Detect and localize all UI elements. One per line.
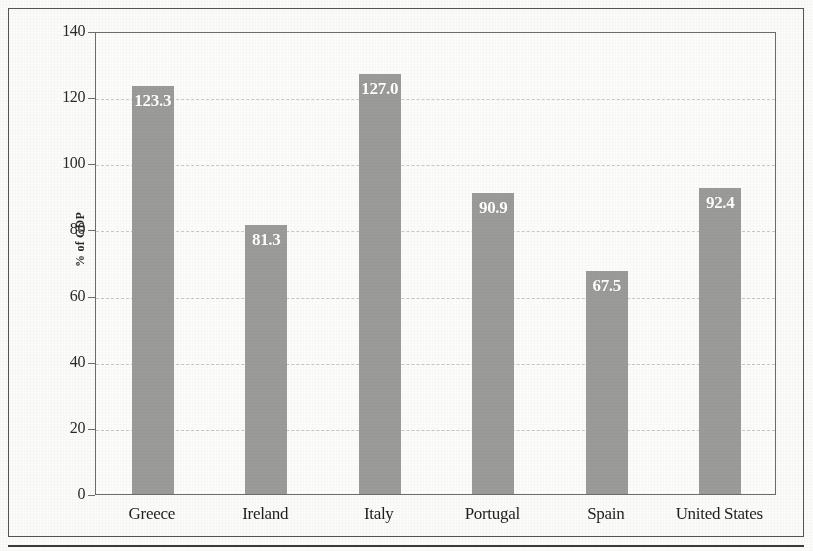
bar-value-label: 67.5: [586, 276, 628, 296]
y-tick-label: 40: [33, 353, 85, 371]
gridline: [96, 231, 775, 232]
y-tick-mark: [88, 429, 95, 430]
y-tick-label: 80: [33, 220, 85, 238]
bar[interactable]: 67.5: [586, 271, 628, 494]
y-tick-mark: [88, 230, 95, 231]
bar[interactable]: 123.3: [132, 86, 174, 494]
chart-page: % of GDP 020406080100120140 123.381.3127…: [0, 0, 813, 551]
gridline: [96, 430, 775, 431]
bar[interactable]: 92.4: [699, 188, 741, 494]
y-tick-mark: [88, 164, 95, 165]
y-tick-label: 0: [33, 485, 85, 503]
y-tick-mark: [88, 363, 95, 364]
y-axis-title: % of GDP: [73, 190, 88, 290]
y-tick-label: 20: [33, 419, 85, 437]
y-tick-label: 60: [33, 287, 85, 305]
y-tick-label: 140: [33, 22, 85, 40]
bar-value-label: 90.9: [472, 198, 514, 218]
gridline: [96, 298, 775, 299]
gridline: [96, 364, 775, 365]
x-tick-label: United States: [634, 504, 804, 524]
bar[interactable]: 127.0: [359, 74, 401, 494]
y-tick-mark: [88, 98, 95, 99]
plot-area: 123.381.3127.090.967.592.4: [95, 32, 776, 495]
gridline: [96, 165, 775, 166]
y-tick-label: 120: [33, 88, 85, 106]
bar-value-label: 81.3: [245, 230, 287, 250]
y-tick-label: 100: [33, 154, 85, 172]
bar-chart: % of GDP 020406080100120140 123.381.3127…: [0, 0, 813, 551]
y-tick-mark: [88, 297, 95, 298]
bar-value-label: 127.0: [359, 79, 401, 99]
page-bottom-rule: [8, 545, 804, 547]
y-tick-mark: [88, 495, 95, 496]
bar[interactable]: 81.3: [245, 225, 287, 494]
gridline: [96, 99, 775, 100]
y-tick-mark: [88, 32, 95, 33]
bar[interactable]: 90.9: [472, 193, 514, 494]
bar-value-label: 92.4: [699, 193, 741, 213]
bar-value-label: 123.3: [132, 91, 174, 111]
